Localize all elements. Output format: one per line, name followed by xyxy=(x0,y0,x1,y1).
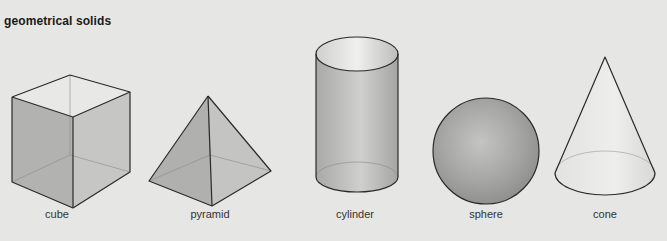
solids-diagram xyxy=(0,0,667,241)
cube-label: cube xyxy=(17,208,97,220)
pyramid-shape xyxy=(149,96,271,206)
cylinder-shape xyxy=(316,37,398,192)
sphere-label: sphere xyxy=(446,208,526,220)
pyramid-label: pyramid xyxy=(170,208,250,220)
cube-shape xyxy=(12,75,130,208)
cylinder-label: cylinder xyxy=(315,208,395,220)
cone-label: cone xyxy=(565,208,645,220)
cone-shape xyxy=(555,57,655,195)
sphere-shape xyxy=(433,98,539,204)
